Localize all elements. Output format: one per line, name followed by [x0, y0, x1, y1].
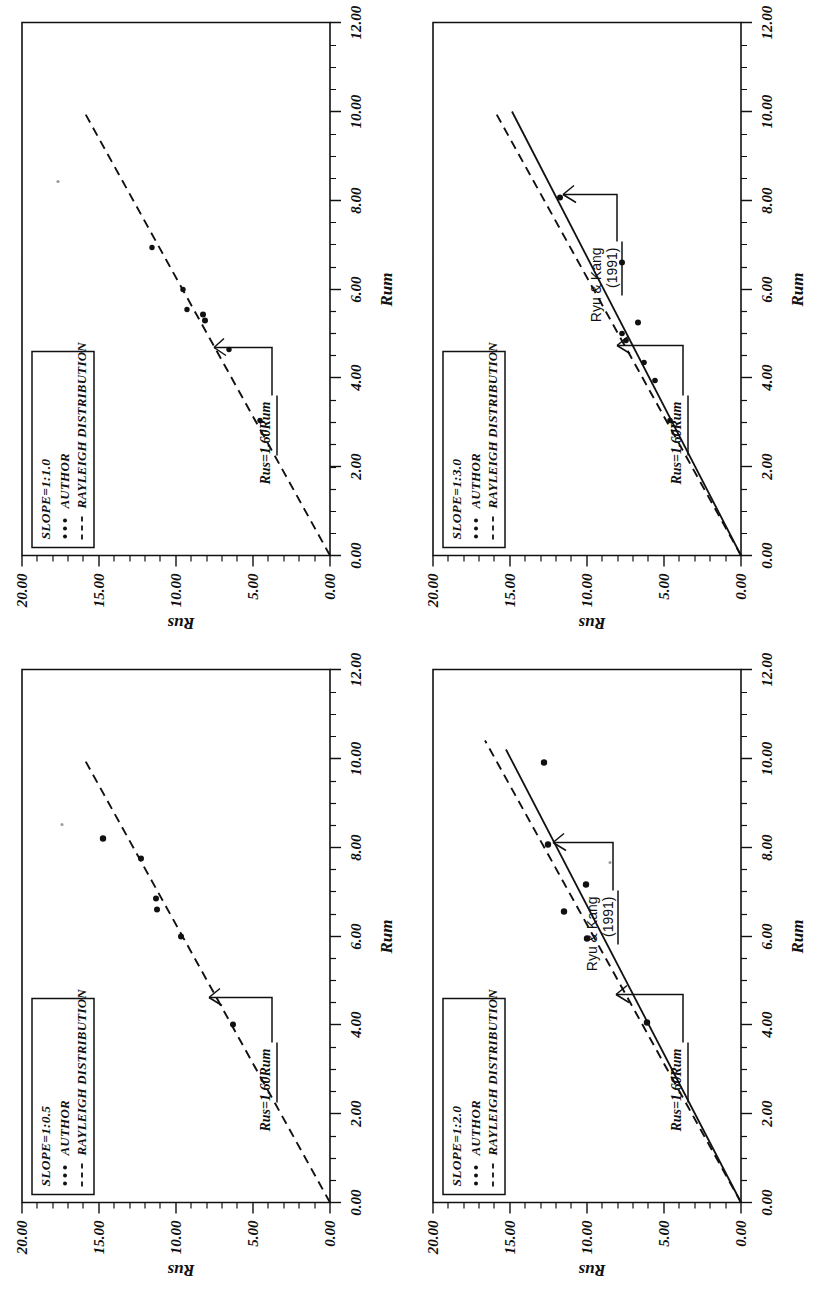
x-axis-label: Rum — [377, 919, 396, 954]
x-tick-labels: 0.00 2.00 4.00 6.00 8.00 10.00 12.00 — [348, 5, 364, 569]
data-point — [100, 835, 106, 841]
y-tick-label: 20.00 — [425, 573, 441, 608]
rayleigh-annotation: Rus=1.60Rum — [616, 985, 688, 1132]
x-tick-label: 0.00 — [759, 541, 775, 568]
legend-box: SLOPE=1:2.0 AUTHOR RAYLEIGH DISTRIBUTION — [443, 988, 505, 1194]
ryu-kang-line — [512, 111, 741, 555]
x-tick-label: 4.00 — [759, 363, 775, 391]
y-tick-label: 5.00 — [245, 573, 261, 600]
data-point — [583, 881, 589, 887]
rayleigh-line — [84, 758, 330, 1202]
x-tick-label: 10.00 — [348, 94, 364, 128]
y-tick-label: 20.00 — [14, 573, 30, 608]
chart-bottom-left: 0.00 2.00 4.00 6.00 8.00 10.00 12.00 0.0… — [0, 647, 410, 1294]
x-tick-label: 12.00 — [348, 652, 364, 686]
y-tick-label: 5.00 — [656, 1220, 672, 1247]
y-tick-label: 20.00 — [14, 1220, 30, 1255]
data-point — [652, 377, 658, 383]
y-tick-label: 0.00 — [322, 1220, 338, 1247]
x-tick-label: 6.00 — [759, 922, 775, 949]
rayleigh-annotation: Rus=1.60Rum — [617, 336, 688, 485]
y-tick-label: 0.00 — [733, 573, 749, 600]
scan-speck — [609, 861, 612, 864]
y-tick-labels: 0.00 5.00 10.00 15.00 20.00 — [425, 573, 749, 608]
legend-box: SLOPE=1:0.5 AUTHOR RAYLEIGH DISTRIBUTION — [32, 988, 94, 1194]
rayleigh-relation-label: Rus=1.60Rum — [258, 401, 273, 485]
panel-bottom-left: 0.00 2.00 4.00 6.00 8.00 10.00 12.00 0.0… — [0, 647, 410, 1294]
x-tick-labels: 0.00 2.00 4.00 6.00 8.00 10.00 12.00 — [759, 5, 775, 569]
y-axis-ticks — [22, 1202, 330, 1213]
rayleigh-relation-label: Rus=1.60Rum — [669, 401, 684, 485]
ryu-kang-label-line2: (1991) — [600, 896, 616, 936]
ryu-kang-label-line1: Ryu & Kang — [588, 247, 604, 322]
chart-top-left: 0.00 2.00 4.00 6.00 8.00 10.00 12.00 0.0… — [0, 0, 410, 647]
x-tick-label: 8.00 — [759, 186, 775, 213]
data-point — [149, 244, 154, 249]
x-tick-label: 12.00 — [348, 5, 364, 39]
x-tick-label: 8.00 — [759, 833, 775, 860]
x-tick-label: 10.00 — [759, 94, 775, 128]
x-tick-label: 12.00 — [759, 5, 775, 39]
y-axis-ticks — [433, 1202, 741, 1213]
y-axis-ticks — [433, 555, 741, 566]
x-tick-label: 2.00 — [348, 1099, 364, 1127]
x-axis-label: Rum — [788, 272, 807, 307]
y-axis-label: Rus — [578, 613, 607, 632]
plot-area-top-left: 0.00 2.00 4.00 6.00 8.00 10.00 12.00 0.0… — [0, 0, 410, 647]
x-tick-label: 2.00 — [759, 1099, 775, 1127]
plot-area-bottom-right: 0.00 2.00 4.00 6.00 8.00 10.00 12.00 0.0… — [411, 647, 821, 1294]
x-axis-label: Rum — [788, 919, 807, 954]
y-tick-label: 10.00 — [168, 573, 184, 607]
chart-top-right: 0.00 2.00 4.00 6.00 8.00 10.00 12.00 0.0… — [411, 0, 821, 647]
x-axis-ticks — [741, 669, 752, 1202]
x-tick-label: 0.00 — [348, 1188, 364, 1215]
figure-sheet: 0.00 2.00 4.00 6.00 8.00 10.00 12.00 0.0… — [0, 0, 821, 1294]
rayleigh-line — [485, 740, 741, 1202]
y-tick-label: 15.00 — [91, 1220, 107, 1254]
plot-area-top-right: 0.00 2.00 4.00 6.00 8.00 10.00 12.00 0.0… — [411, 0, 821, 647]
x-tick-label: 6.00 — [348, 922, 364, 949]
y-tick-label: 15.00 — [502, 1220, 518, 1254]
data-point — [561, 908, 567, 914]
x-axis-ticks — [741, 22, 752, 555]
y-tick-label: 10.00 — [168, 1220, 184, 1254]
plot-area-bottom-left: 0.00 2.00 4.00 6.00 8.00 10.00 12.00 0.0… — [0, 647, 410, 1294]
panel-top-right: 0.00 2.00 4.00 6.00 8.00 10.00 12.00 0.0… — [411, 0, 821, 647]
panel-rotation-wrapper: 0.00 2.00 4.00 6.00 8.00 10.00 12.00 0.0… — [0, 647, 410, 1294]
rayleigh-line — [495, 111, 741, 555]
x-tick-label: 0.00 — [759, 1188, 775, 1215]
legend-slope-label: SLOPE=1:3.0 — [449, 458, 464, 539]
legend-rayleigh-label: RAYLEIGH DISTRIBUTION — [485, 341, 500, 509]
x-axis-ticks — [330, 22, 341, 555]
panel-rotation-wrapper: 0.00 2.00 4.00 6.00 8.00 10.00 12.00 0.0… — [0, 0, 410, 647]
author-data-points — [149, 244, 262, 422]
data-point — [184, 306, 189, 311]
ryu-kang-annotation: Ryu & Kang (1991) — [553, 833, 618, 971]
data-point — [200, 311, 206, 317]
x-tick-label: 2.00 — [348, 452, 364, 480]
legend-box: SLOPE=1:3.0 AUTHOR RAYLEIGH DISTRIBUTION — [443, 341, 505, 547]
rayleigh-relation-label: Rus=1.60Rum — [669, 1048, 684, 1132]
panel-bottom-right: 0.00 2.00 4.00 6.00 8.00 10.00 12.00 0.0… — [411, 647, 821, 1294]
data-point — [635, 319, 641, 325]
data-point — [545, 841, 551, 847]
legend-author-label: AUTHOR — [57, 1100, 72, 1157]
x-tick-label: 8.00 — [348, 186, 364, 213]
legend-rayleigh-label: RAYLEIGH DISTRIBUTION — [485, 988, 500, 1156]
x-tick-label: 10.00 — [759, 741, 775, 775]
y-tick-labels: 0.00 5.00 10.00 15.00 20.00 — [14, 573, 338, 608]
panel-top-left: 0.00 2.00 4.00 6.00 8.00 10.00 12.00 0.0… — [0, 0, 410, 647]
chart-bottom-right: 0.00 2.00 4.00 6.00 8.00 10.00 12.00 0.0… — [411, 647, 821, 1294]
legend-rayleigh-label: RAYLEIGH DISTRIBUTION — [74, 341, 89, 509]
ryu-kang-label-line1: Ryu & Kang — [584, 896, 600, 971]
rayleigh-annotation: Rus=1.60Rum — [214, 338, 277, 485]
scan-speck — [61, 823, 64, 826]
y-tick-labels: 0.00 5.00 10.00 15.00 20.00 — [14, 1220, 338, 1255]
legend-box: SLOPE=1:1.0 AUTHOR RAYLEIGH DISTRIBUTION — [32, 341, 94, 547]
rayleigh-annotation: Rus=1.60Rum — [209, 988, 277, 1132]
x-tick-label: 10.00 — [348, 741, 364, 775]
x-tick-label: 2.00 — [759, 452, 775, 480]
data-point — [619, 330, 625, 336]
legend-slope-label: SLOPE=1:0.5 — [38, 1105, 53, 1186]
legend-slope-label: SLOPE=1:2.0 — [449, 1105, 464, 1186]
